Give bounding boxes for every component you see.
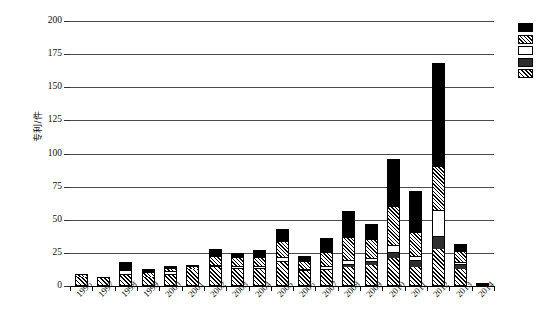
bar-segment-series-4-2010 bbox=[387, 207, 400, 245]
bar-2012 bbox=[432, 63, 445, 286]
bar-segment-series-5-2002 bbox=[209, 249, 222, 257]
plot-area bbox=[70, 21, 494, 286]
bar-segment-series-4-2007 bbox=[320, 253, 333, 266]
bar-segment-series-2-2011 bbox=[409, 261, 422, 268]
gridline-125 bbox=[70, 120, 494, 121]
bar-segment-series-4-2013 bbox=[454, 252, 467, 263]
bar-2009 bbox=[365, 224, 378, 286]
bar-segment-series-5-2011 bbox=[409, 191, 422, 233]
bar-segment-series-4-2012 bbox=[432, 167, 445, 211]
bar-segment-series-5-2013 bbox=[454, 244, 467, 252]
gridline-100 bbox=[70, 154, 494, 155]
y-tick-label-200: 200 bbox=[34, 15, 62, 25]
bar-segment-series-5-1998 bbox=[119, 262, 132, 270]
bar-segment-series-4-2008 bbox=[342, 238, 355, 259]
legend-item-3-swatch bbox=[518, 46, 533, 55]
bar-segment-series-3-2012 bbox=[432, 210, 445, 237]
bar-segment-series-4-2011 bbox=[409, 233, 422, 256]
y-tick-label-175: 175 bbox=[34, 48, 62, 58]
bar-segment-series-2-2012 bbox=[432, 237, 445, 249]
y-tick-label-75: 75 bbox=[34, 181, 62, 191]
legend-item-1-swatch bbox=[518, 23, 533, 32]
gridline-200 bbox=[70, 21, 494, 22]
gridline-75 bbox=[70, 187, 494, 188]
bar-segment-series-4-2002 bbox=[209, 257, 222, 265]
bar-segment-series-4-2003 bbox=[231, 258, 244, 266]
y-tick-label-50: 50 bbox=[34, 214, 62, 224]
bar-2010 bbox=[387, 159, 400, 286]
y-tick-label-25: 25 bbox=[34, 247, 62, 257]
bar-segment-series-5-2009 bbox=[365, 224, 378, 240]
bar-2008 bbox=[342, 211, 355, 286]
bar-segment-series-5-2004 bbox=[253, 250, 266, 258]
gridline-50 bbox=[70, 220, 494, 221]
chart-legend bbox=[518, 23, 534, 81]
bar-segment-series-5-2010 bbox=[387, 159, 400, 207]
x-tick-1996 bbox=[70, 286, 71, 291]
bar-segment-series-4-2009 bbox=[365, 240, 378, 259]
legend-item-5-swatch bbox=[518, 69, 533, 78]
y-tick-label-150: 150 bbox=[34, 81, 62, 91]
y-tick-label-0: 0 bbox=[34, 280, 62, 290]
legend-item-4-swatch bbox=[518, 58, 533, 67]
bar-segment-series-5-2006 bbox=[298, 256, 311, 263]
bar-segment-series-3-2010 bbox=[387, 245, 400, 253]
bar-2011 bbox=[409, 191, 422, 286]
y-tick-label-100: 100 bbox=[34, 148, 62, 158]
bar-segment-series-5-2008 bbox=[342, 211, 355, 239]
gridline-150 bbox=[70, 87, 494, 88]
y-tick-label-125: 125 bbox=[34, 114, 62, 124]
bar-2005 bbox=[276, 229, 289, 286]
bar-segment-series-4-2005 bbox=[276, 242, 289, 257]
bar-segment-series-4-2006 bbox=[298, 262, 311, 269]
bar-segment-series-5-2005 bbox=[276, 229, 289, 242]
legend-item-2-swatch bbox=[518, 35, 533, 44]
stacked-bar-chart: 专利/件 0255075100125150175200 199619971998… bbox=[0, 0, 544, 324]
bar-segment-series-5-2007 bbox=[320, 238, 333, 253]
gridline-175 bbox=[70, 54, 494, 55]
bar-segment-series-4-2004 bbox=[253, 258, 266, 266]
bar-segment-series-5-2012 bbox=[432, 63, 445, 166]
